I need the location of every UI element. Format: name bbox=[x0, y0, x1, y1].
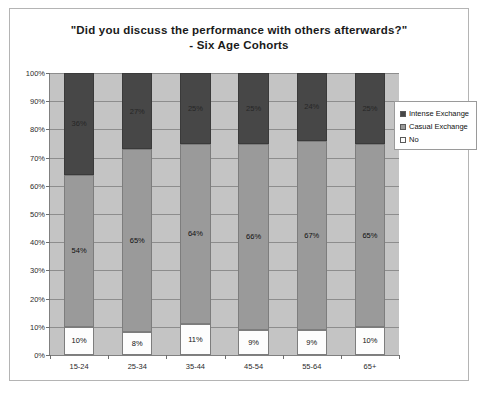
y-tick-mark bbox=[46, 242, 50, 243]
chart-subtitle: - Six Age Cohorts bbox=[10, 38, 468, 53]
x-tick-mark bbox=[341, 355, 342, 359]
y-tick-mark bbox=[46, 214, 50, 215]
bar-segment-intense-exchange[interactable]: 36% bbox=[64, 73, 94, 175]
legend-label: No bbox=[409, 135, 419, 144]
bar-segment-casual-exchange[interactable]: 66% bbox=[238, 144, 268, 330]
gridline bbox=[50, 214, 399, 215]
bar-group[interactable]: 10%54%36% bbox=[64, 73, 94, 355]
legend-swatch-icon bbox=[400, 124, 406, 130]
bar-segment-label: 10% bbox=[72, 336, 87, 345]
gridline bbox=[50, 270, 399, 271]
legend-item[interactable]: No bbox=[400, 135, 472, 144]
y-tick-label: 30% bbox=[30, 266, 45, 275]
bar-segment-label: 64% bbox=[188, 229, 203, 238]
chart-legend: Intense ExchangeCasual ExchangeNo bbox=[394, 101, 477, 150]
bar-segment-casual-exchange[interactable]: 65% bbox=[355, 144, 385, 327]
bar-segment-no[interactable]: 10% bbox=[64, 327, 94, 355]
bar-segment-no[interactable]: 10% bbox=[355, 327, 385, 355]
x-tick-label: 65+ bbox=[364, 362, 377, 371]
gridline bbox=[50, 186, 399, 187]
x-tick-mark bbox=[399, 355, 400, 359]
x-tick-mark bbox=[166, 355, 167, 359]
legend-label: Intense Exchange bbox=[409, 109, 469, 118]
bar-segment-label: 27% bbox=[130, 107, 145, 116]
x-tick-mark bbox=[225, 355, 226, 359]
bar-group[interactable]: 9%66%25% bbox=[238, 73, 268, 355]
y-tick-mark bbox=[46, 299, 50, 300]
x-tick-label: 25-34 bbox=[128, 362, 147, 371]
bar-segment-label: 54% bbox=[72, 246, 87, 255]
gridline bbox=[50, 242, 399, 243]
bar-segment-no[interactable]: 11% bbox=[180, 324, 210, 355]
x-tick-label: 15-24 bbox=[69, 362, 88, 371]
x-tick-label: 55-64 bbox=[302, 362, 321, 371]
y-tick-mark bbox=[46, 158, 50, 159]
bar-segment-label: 9% bbox=[248, 338, 259, 347]
y-tick-mark bbox=[46, 186, 50, 187]
bar-segment-no[interactable]: 9% bbox=[297, 330, 327, 355]
legend-item[interactable]: Casual Exchange bbox=[400, 122, 472, 131]
y-tick-label: 60% bbox=[30, 181, 45, 190]
y-tick-mark bbox=[46, 101, 50, 102]
bar-segment-label: 10% bbox=[362, 336, 377, 345]
gridline bbox=[50, 101, 399, 102]
gridline bbox=[50, 327, 399, 328]
bar-segment-casual-exchange[interactable]: 64% bbox=[180, 144, 210, 324]
bar-group[interactable]: 8%65%27% bbox=[122, 73, 152, 355]
y-tick-label: 10% bbox=[30, 322, 45, 331]
y-tick-mark bbox=[46, 327, 50, 328]
bar-segment-label: 66% bbox=[246, 232, 261, 241]
gridline bbox=[50, 158, 399, 159]
bar-segment-label: 25% bbox=[246, 104, 261, 113]
plot-area: 0%10%20%30%40%50%60%70%80%90%100% 10%54%… bbox=[49, 73, 399, 356]
bar-segment-label: 65% bbox=[130, 236, 145, 245]
bar-group[interactable]: 10%65%25% bbox=[355, 73, 385, 355]
bar-segment-intense-exchange[interactable]: 25% bbox=[180, 73, 210, 144]
bar-segment-intense-exchange[interactable]: 27% bbox=[122, 73, 152, 149]
bar-segment-label: 24% bbox=[304, 102, 319, 111]
gridline bbox=[50, 299, 399, 300]
bar-segment-intense-exchange[interactable]: 25% bbox=[355, 73, 385, 144]
x-tick-label: 35-44 bbox=[186, 362, 205, 371]
bar-group[interactable]: 11%64%25% bbox=[180, 73, 210, 355]
x-tick-mark bbox=[108, 355, 109, 359]
y-tick-mark bbox=[46, 129, 50, 130]
bar-segment-casual-exchange[interactable]: 65% bbox=[122, 149, 152, 332]
bar-segment-label: 9% bbox=[306, 338, 317, 347]
gridline bbox=[50, 73, 399, 74]
bar-segment-label: 11% bbox=[188, 335, 202, 344]
bar-segment-label: 36% bbox=[72, 119, 87, 128]
bar-segment-casual-exchange[interactable]: 54% bbox=[64, 175, 94, 327]
y-tick-mark bbox=[46, 73, 50, 74]
chart-frame: "Did you discuss the performance with ot… bbox=[9, 8, 469, 381]
y-tick-label: 90% bbox=[30, 97, 45, 106]
bar-segment-intense-exchange[interactable]: 25% bbox=[238, 73, 268, 144]
bar-segment-label: 25% bbox=[362, 104, 377, 113]
y-tick-label: 100% bbox=[26, 69, 45, 78]
bar-segment-no[interactable]: 8% bbox=[122, 332, 152, 355]
legend-swatch-icon bbox=[400, 137, 406, 143]
bar-segment-label: 67% bbox=[304, 231, 319, 240]
chart-title-line1: "Did you discuss the performance with ot… bbox=[71, 24, 408, 36]
y-tick-mark bbox=[46, 270, 50, 271]
bar-segment-intense-exchange[interactable]: 24% bbox=[297, 73, 327, 141]
y-tick-label: 20% bbox=[30, 294, 45, 303]
legend-label: Casual Exchange bbox=[409, 122, 468, 131]
legend-swatch-icon bbox=[400, 111, 406, 117]
y-tick-label: 0% bbox=[34, 351, 45, 360]
y-tick-label: 80% bbox=[30, 125, 45, 134]
bar-group[interactable]: 9%67%24% bbox=[297, 73, 327, 355]
gridline bbox=[50, 129, 399, 130]
y-tick-label: 50% bbox=[30, 210, 45, 219]
legend-item[interactable]: Intense Exchange bbox=[400, 109, 472, 118]
bar-segment-label: 8% bbox=[132, 339, 143, 348]
chart-title: "Did you discuss the performance with ot… bbox=[10, 23, 468, 53]
y-tick-label: 70% bbox=[30, 153, 45, 162]
x-tick-mark bbox=[283, 355, 284, 359]
bar-segment-casual-exchange[interactable]: 67% bbox=[297, 141, 327, 330]
bar-segment-label: 25% bbox=[188, 104, 203, 113]
x-tick-label: 45-54 bbox=[244, 362, 263, 371]
bar-segment-label: 65% bbox=[362, 231, 377, 240]
x-tick-mark bbox=[50, 355, 51, 359]
bar-segment-no[interactable]: 9% bbox=[238, 330, 268, 355]
